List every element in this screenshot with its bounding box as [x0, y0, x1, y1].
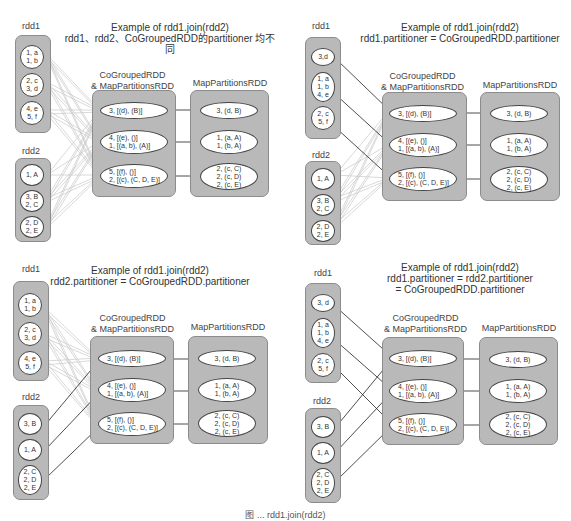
cogrouped-partition: 4, [(e), ()] 1, [(a, b), (A)]	[389, 133, 457, 157]
mappartitions-partition: 2, (c, C) 2, (c, D) 2, (c, E)	[490, 166, 548, 193]
cogrouped-partition: 5, [(f), ()] 2, [(c), (C, D, E)]	[389, 167, 457, 191]
cogrouped-partition: 3, [(d), (B)]	[98, 350, 166, 367]
panel-rdd1-shares-partitioner: rdd1 Example of rdd1.join(rdd2) rdd1.par…	[285, 0, 570, 250]
mappartitions-partition: 3, (d, B)	[198, 350, 256, 367]
rdd1-label: rdd1	[20, 21, 42, 31]
rdd2-label: rdd2	[310, 150, 332, 160]
mappartitions-partition: 1, (a, A) 1, (b, A)	[200, 130, 258, 154]
rdd2-partition: 1, A	[311, 442, 335, 464]
rdd2-partition: 2, D 2, E	[311, 220, 335, 242]
rdd2-partition: 2, D 2, E	[20, 216, 44, 238]
panel-title: Example of rdd1.join(rdd2) rdd1、rdd2、CoG…	[60, 22, 280, 55]
figure-caption: 图 ... rdd1.join(rdd2)	[0, 508, 571, 521]
cogrouped-label: CoGroupedRDD & MapPartitionsRDD	[90, 70, 175, 92]
mappartitions-partition: 2, (c, C) 2, (c, D) 2, (c, E)	[198, 410, 256, 437]
mappartitions-partition: 2, (c, C) 2, (c, D) 2, (c, E)	[200, 163, 258, 190]
panel-all-share-partitioner: rdd1 Example of rdd1.join(rdd2) rdd1.par…	[285, 250, 570, 500]
cogrouped-label: CoGroupedRDD & MapPartitionsRDD	[380, 71, 465, 93]
rdd1-label: rdd1	[312, 268, 334, 278]
cogrouped-label: CoGroupedRDD & MapPartitionsRDD	[383, 313, 468, 335]
mappartitions-label: MapPartitionsRDD	[188, 322, 268, 332]
rdd2-partition: 3, B 2, C	[20, 190, 44, 212]
mappartitions-partition: 3, (d, B)	[489, 351, 547, 368]
rdd2-partition: 2, C 2, D 2, E	[18, 465, 42, 495]
cogrouped-partition: 5, [(f), ()] 2, [(c), (C, D, E)]	[389, 413, 457, 437]
rdd1-partition: 3,d	[311, 48, 335, 66]
cogrouped-partition: 5, [(f), ()] 2, [(c), (C, D, E)]	[100, 164, 168, 188]
panel-title: Example of rdd1.join(rdd2) rdd1.partitio…	[365, 262, 555, 295]
rdd1-partition: 2, c 3, d	[20, 73, 44, 97]
rdd1-partition: 2, c 5, f	[311, 106, 335, 130]
cogrouped-partition: 3, [(d), (B)]	[100, 102, 168, 119]
rdd1-partition: 1, a 1, b	[20, 45, 44, 69]
rdd2-partition: 3, B 2, C	[311, 194, 335, 216]
mappartitions-partition: 3, (d, B)	[490, 105, 548, 122]
rdd1-label: rdd1	[310, 21, 332, 31]
rdd1-partition: 2, c 3, d	[18, 322, 42, 346]
mappartitions-partition: 3, (d, B)	[200, 102, 258, 119]
rdd1-label: rdd1	[20, 264, 42, 274]
cogrouped-partition: 3, [(d), (B)]	[389, 105, 457, 122]
rdd1-partition: 1, a 1, b	[18, 293, 42, 317]
rdd1-partition: 2, c 5, f	[311, 353, 335, 377]
cogrouped-partition: 5, [(f), ()] 2, [(c), (C, D, E)]	[98, 412, 166, 436]
cogrouped-partition: 4, [(e), ()] 1, [(a, b), (A)]	[100, 130, 168, 154]
cogrouped-partition: 3, [(d), (B)]	[389, 350, 457, 367]
cogrouped-partition: 4, [(e), ()] 1, [(a, b), (A)]	[389, 379, 457, 403]
rdd1-partition: 1, a 1, b 4, e	[311, 72, 335, 102]
rdd1-partition: 3, d	[311, 294, 335, 312]
mappartitions-label: MapPartitionsRDD	[479, 323, 559, 333]
cogrouped-partition: 4, [(e), ()] 1, [(a, b), (A)]	[98, 378, 166, 402]
mappartitions-label: MapPartitionsRDD	[190, 78, 270, 88]
mappartitions-partition: 1, (a, A) 1, (b, A)	[489, 379, 547, 403]
rdd2-label: rdd2	[309, 396, 335, 406]
mappartitions-partition: 2, (c, C) 2, (c, D) 2, (c, E)	[489, 411, 547, 438]
rdd2-partition: 1, A	[20, 164, 44, 186]
rdd1-partition: 4, e 5, f	[20, 101, 44, 125]
rdd1-partition: 4, e 5, f	[18, 351, 42, 375]
panel-rdd2-shares-partitioner: rdd1 Example of rdd1.join(rdd2) rdd2.par…	[0, 250, 285, 500]
rdd1-partition: 1, a 1, b 4, e	[311, 318, 335, 348]
rdd2-partition: 3, B	[18, 413, 42, 435]
rdd2-label: rdd2	[18, 392, 44, 402]
rdd2-partition: 2, C 2, D 2, E	[311, 468, 335, 498]
mappartitions-partition: 1, (a, A) 1, (b, A)	[490, 133, 548, 157]
mappartitions-label: MapPartitionsRDD	[480, 80, 560, 90]
rdd2-partition: 1, A	[311, 168, 335, 190]
panel-no-shared-partitioner: rdd1 Example of rdd1.join(rdd2) rdd1、rdd…	[0, 0, 285, 250]
rdd2-partition: 1, A	[18, 439, 42, 461]
panel-title: Example of rdd1.join(rdd2) rdd2.partitio…	[50, 265, 250, 287]
rdd2-label: rdd2	[20, 146, 42, 156]
cogrouped-label: CoGroupedRDD & MapPartitionsRDD	[90, 313, 175, 335]
rdd2-partition: 3, B	[311, 416, 335, 438]
panel-title: Example of rdd1.join(rdd2) rdd1.partitio…	[355, 22, 565, 44]
mappartitions-partition: 1, (a, A) 1, (b, A)	[198, 378, 256, 402]
